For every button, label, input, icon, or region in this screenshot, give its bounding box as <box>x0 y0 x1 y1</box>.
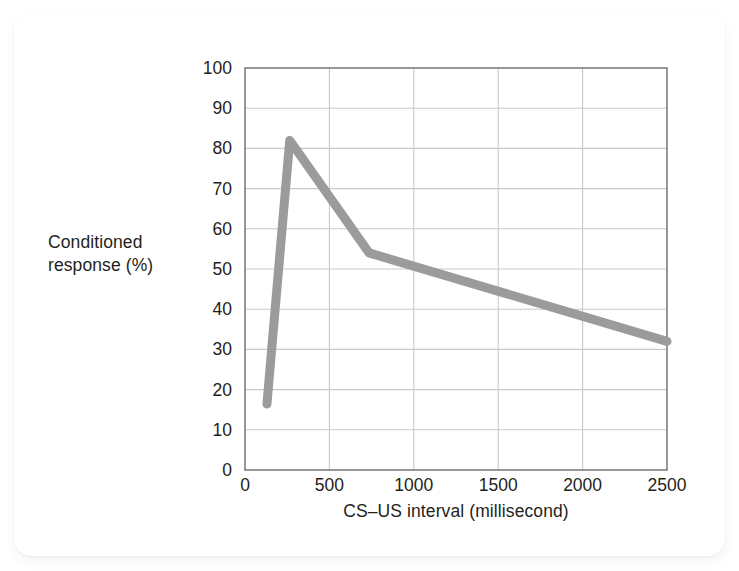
y-axis-title-line-0: Conditioned <box>48 231 208 254</box>
x-axis-title: CS–US interval (millisecond) <box>245 501 667 522</box>
y-tick-label: 70 <box>188 178 232 199</box>
y-tick-label: 100 <box>188 58 232 79</box>
x-tick-label: 500 <box>299 475 359 496</box>
grid-lines <box>245 68 667 470</box>
y-tick-label: 30 <box>188 339 232 360</box>
chart-plot-area: 0102030405060708090100 05001000150020002… <box>0 0 739 571</box>
data-series-group <box>267 140 667 404</box>
y-tick-label: 40 <box>188 299 232 320</box>
y-tick-label: 10 <box>188 419 232 440</box>
y-axis-title: Conditionedresponse (%) <box>48 231 208 277</box>
x-tick-label: 2000 <box>553 475 613 496</box>
y-tick-label: 80 <box>188 138 232 159</box>
x-tick-label: 1500 <box>468 475 528 496</box>
chart-svg <box>0 0 739 571</box>
data-line-series-0 <box>267 140 667 404</box>
y-axis-title-line-1: response (%) <box>48 254 208 277</box>
y-tick-label: 20 <box>188 379 232 400</box>
x-tick-label: 2500 <box>637 475 697 496</box>
x-tick-label: 1000 <box>384 475 444 496</box>
y-tick-label: 90 <box>188 98 232 119</box>
x-tick-label: 0 <box>215 475 275 496</box>
